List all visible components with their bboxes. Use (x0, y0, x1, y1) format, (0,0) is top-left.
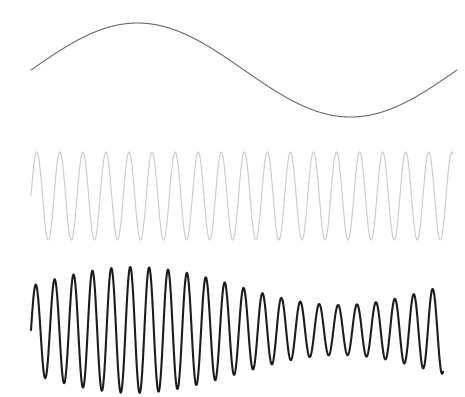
waveform-figure (0, 0, 465, 397)
waveform-canvas (0, 0, 465, 397)
figure-background (0, 0, 465, 397)
